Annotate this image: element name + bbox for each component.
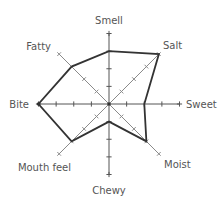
axis-label-moist: Moist bbox=[164, 159, 191, 170]
axis-label-sweet: Sweet bbox=[186, 99, 217, 110]
axis-label-chewy: Chewy bbox=[92, 185, 126, 196]
data-polygon bbox=[39, 51, 159, 141]
axis-label-mouth-feel: Mouth feel bbox=[18, 162, 71, 173]
axis-label-salt: Salt bbox=[163, 40, 182, 51]
axis-label-fatty: Fatty bbox=[26, 41, 51, 52]
axis-label-smell: Smell bbox=[95, 15, 123, 26]
axis-label-bite: Bite bbox=[9, 99, 29, 110]
center-dot bbox=[107, 102, 111, 106]
radar-chart: Smell Salt Sweet Moist Chewy Mouth feel … bbox=[0, 0, 224, 203]
bite-point-dot bbox=[37, 102, 41, 106]
